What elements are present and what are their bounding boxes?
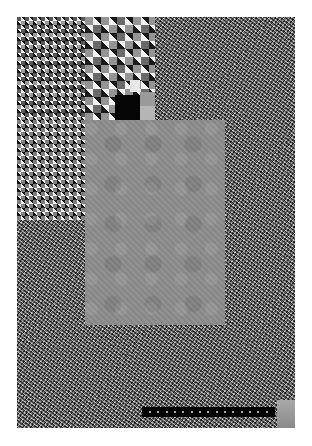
white-block bbox=[130, 80, 140, 92]
caption-dot bbox=[157, 411, 159, 413]
gray-square bbox=[85, 120, 225, 325]
caption-dot bbox=[207, 411, 209, 413]
caption-dot bbox=[249, 411, 251, 413]
caption-dot bbox=[199, 411, 201, 413]
checkerboard-medium-lower bbox=[17, 120, 85, 220]
gray-block bbox=[140, 106, 155, 120]
caption-dot bbox=[174, 411, 176, 413]
gray-block bbox=[140, 92, 155, 106]
caption-dot bbox=[241, 411, 243, 413]
caption-dot bbox=[182, 411, 184, 413]
caption-dot bbox=[166, 411, 168, 413]
caption-dot bbox=[224, 411, 226, 413]
caption-dot bbox=[257, 411, 259, 413]
caption-dot bbox=[216, 411, 218, 413]
caption-dot bbox=[232, 411, 234, 413]
caption-dot bbox=[191, 411, 193, 413]
caption-dot bbox=[266, 411, 268, 413]
caption-dot bbox=[149, 411, 151, 413]
caption-bar bbox=[142, 407, 275, 417]
black-block bbox=[115, 95, 140, 120]
corner-patch bbox=[277, 400, 295, 428]
